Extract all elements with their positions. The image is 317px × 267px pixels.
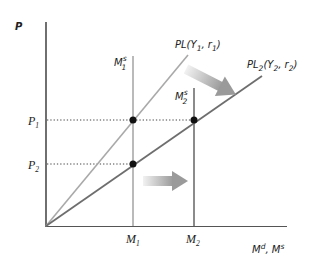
y-axis-label: P [15,21,23,32]
ms2-label: Ms2 [175,88,188,106]
diagram-canvas: P P1 P2 M1 M2 Ms1 Ms2 PL(Y1, r1) PL2(Y2,… [0,0,317,267]
pl2-curve [46,76,262,226]
pl1-label: PL(Y1, r1) [175,39,221,53]
ms1-label: Ms1 [114,54,127,72]
pl1-curve [46,55,188,226]
p2-label: P2 [27,158,39,174]
ms-shift-arrow [143,171,188,191]
pl2-label: PL2(Y2, r2) [247,59,297,73]
p1-label: P1 [27,114,39,130]
m2-label: M2 [185,232,200,248]
money-market-diagram: P P1 P2 M1 M2 Ms1 Ms2 PL(Y1, r1) PL2(Y2,… [0,0,317,267]
x-axis-label: Md, Ms [252,242,284,255]
point-m1-p2 [130,161,137,168]
m1-label: M1 [125,232,140,248]
point-m1-p1 [130,117,137,124]
point-m2-p1 [191,117,198,124]
